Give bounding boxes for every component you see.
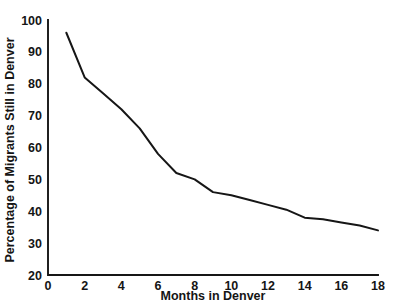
x-tick-label: 14: [298, 279, 312, 293]
y-tick-label: 50: [28, 173, 42, 187]
line-chart: 2030405060708090100 024681012141618 Mont…: [0, 0, 399, 307]
y-tick-label: 40: [28, 205, 42, 219]
y-tick-label: 100: [21, 14, 42, 28]
y-tick-label: 30: [28, 237, 42, 251]
y-tick-label: 90: [28, 45, 42, 59]
x-tick-label: 2: [81, 279, 88, 293]
axis-lines: [48, 20, 378, 275]
series-group: [66, 33, 378, 231]
y-tick-label: 70: [28, 109, 42, 123]
data-series-line: [66, 33, 378, 231]
y-tick-labels: 2030405060708090100: [21, 14, 42, 283]
y-tick-label: 80: [28, 77, 42, 91]
x-tick-label: 0: [45, 279, 52, 293]
x-tick-label: 4: [118, 279, 125, 293]
x-axis-title: Months in Denver: [161, 289, 266, 303]
y-tick-label: 20: [28, 269, 42, 283]
x-tick-label: 16: [334, 279, 348, 293]
axis-path: [48, 20, 378, 275]
chart-figure: 2030405060708090100 024681012141618 Mont…: [0, 0, 399, 307]
y-axis-title: Percentage of Migrants Still in Denver: [3, 37, 17, 262]
x-tick-label: 18: [371, 279, 385, 293]
y-tick-label: 60: [28, 141, 42, 155]
